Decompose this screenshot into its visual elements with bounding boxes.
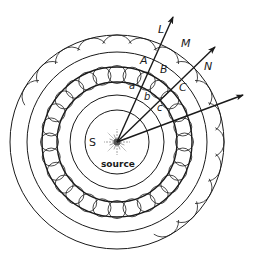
wavelet-circle <box>47 104 65 122</box>
outer-wavelet-arc <box>129 38 157 51</box>
ray-arrows <box>117 17 243 142</box>
label-source: source <box>101 159 135 169</box>
wavelet-circle <box>66 186 84 204</box>
wavelet-circle <box>79 194 97 212</box>
huygens-diagram: LMNABCabcSsource <box>0 0 259 266</box>
ray-N-arrow <box>117 47 215 142</box>
outer-wavelet-arc <box>215 128 224 157</box>
wavelet-circle <box>150 186 168 204</box>
outer-wavelet-arc <box>176 62 197 83</box>
wavelet-circle <box>55 91 73 109</box>
outer-wavelet-arc <box>103 35 132 44</box>
wavelet-circle <box>47 162 65 180</box>
wavelet-circle <box>161 91 179 109</box>
outer-wavelet-arc <box>176 201 197 222</box>
wavelet-circle <box>79 72 97 90</box>
wavelet-circle <box>137 194 155 212</box>
label-L: L <box>158 23 164 36</box>
label-N: N <box>204 60 212 73</box>
wavelet-circle <box>66 80 84 98</box>
label-C: C <box>179 81 187 94</box>
outer-wavelet-arc <box>37 62 58 83</box>
label-A: A <box>139 54 148 67</box>
wavelet-circle <box>169 162 187 180</box>
wavelet-circle <box>161 175 179 193</box>
label-b: b <box>144 91 150 102</box>
label-c: c <box>157 102 163 113</box>
label-B: B <box>160 63 168 76</box>
label-a: a <box>129 80 135 91</box>
label-S: S <box>89 136 96 149</box>
outer-wavelet-arc <box>208 154 221 182</box>
wavelet-circle <box>137 72 155 90</box>
label-M: M <box>181 37 191 50</box>
diagram-canvas: LMNABCabcSsource <box>0 0 259 266</box>
outer-wavelet-arc <box>78 38 106 51</box>
wavelet-circle <box>55 175 73 193</box>
